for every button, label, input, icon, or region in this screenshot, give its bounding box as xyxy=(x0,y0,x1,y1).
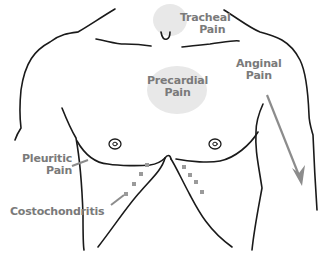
precardial-pain-label: Precardial Pain xyxy=(147,75,208,99)
costochondritis-label-line1: Costochondritis xyxy=(10,206,104,218)
pleuritic-label-line2: Pain xyxy=(22,165,72,177)
right-costochondral-markers xyxy=(182,165,204,194)
left-clavicle xyxy=(96,39,151,46)
costochondritis-pointer-line xyxy=(111,195,124,205)
anginal-arrow xyxy=(267,95,305,186)
right-nipple-center xyxy=(213,142,217,146)
left-nipple xyxy=(109,139,121,149)
costochondritis-label: Costochondritis xyxy=(10,206,104,218)
right-costal-margin xyxy=(171,159,232,247)
xiphoid-notch xyxy=(165,156,171,160)
right-armpit-line xyxy=(252,104,263,250)
tracheal-pain-label: Tracheal Pain xyxy=(180,12,231,36)
left-costal-margin xyxy=(98,158,165,247)
chest-outline-drawing xyxy=(0,0,324,257)
right-pectoral-line xyxy=(176,132,258,162)
right-shoulder-outline xyxy=(224,10,317,210)
anginal-label-line2: Pain xyxy=(236,70,282,82)
left-costochondral-markers xyxy=(124,163,149,196)
chest-pain-diagram: Tracheal Pain Precardial Pain Anginal Pa… xyxy=(0,0,324,257)
anginal-pain-label: Anginal Pain xyxy=(236,58,282,82)
left-armpit-line xyxy=(62,108,84,250)
pleuritic-pain-label: Pleuritic Pain xyxy=(22,153,72,177)
right-nipple xyxy=(209,139,221,149)
precardial-label-line2: Pain xyxy=(147,87,208,99)
left-shoulder-outline xyxy=(15,9,115,140)
left-nipple-center xyxy=(113,142,117,146)
tracheal-label-line2: Pain xyxy=(180,24,231,36)
right-clavicle xyxy=(182,41,239,47)
